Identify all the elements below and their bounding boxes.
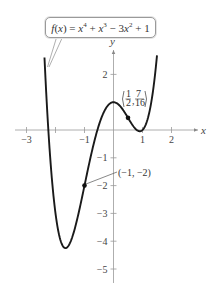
function-callout: f(x) = x4 + x3 − 3x2 + 1 — [45, 17, 156, 38]
point-a-label: 1 2 , 7 16 — [123, 88, 147, 108]
function-equation: f(x) = x4 + x3 − 3x2 + 1 — [51, 22, 149, 34]
svg-text:−1: −1 — [97, 152, 108, 163]
x-axis-label: x — [200, 124, 206, 136]
point-neg1-neg2 — [82, 183, 87, 188]
svg-text:2: 2 — [103, 69, 108, 80]
svg-text:−2: −2 — [97, 180, 108, 191]
svg-text:1: 1 — [140, 134, 145, 145]
function-graph: x y −3−1122−1−2−3−4−5 1 2 , 7 16 (−1, −2… — [0, 0, 211, 289]
svg-text:−4: −4 — [97, 236, 108, 247]
point-half-seven-sixteenths — [126, 116, 131, 121]
point-b-label: (−1, −2) — [118, 167, 151, 179]
callout-pointer — [48, 36, 64, 67]
svg-text:−3: −3 — [21, 134, 32, 145]
svg-text:−5: −5 — [97, 264, 108, 275]
svg-text:2: 2 — [126, 97, 131, 108]
svg-text:−1: −1 — [79, 134, 90, 145]
svg-text:2: 2 — [169, 134, 174, 145]
svg-text:16: 16 — [135, 97, 145, 108]
svg-text:−3: −3 — [97, 208, 108, 219]
